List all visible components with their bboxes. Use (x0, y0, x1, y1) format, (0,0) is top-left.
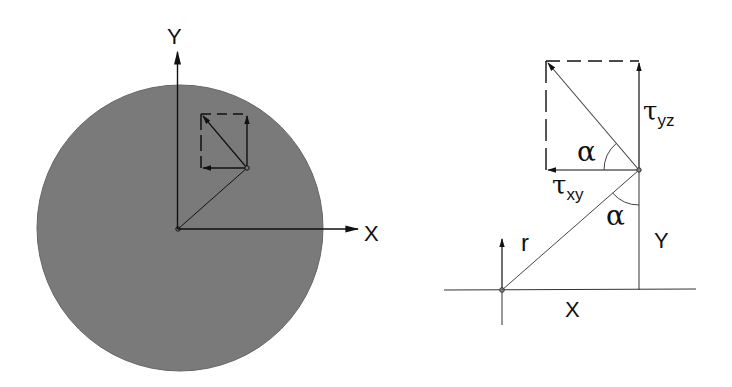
baseline (444, 289, 696, 290)
stress-point (245, 166, 249, 170)
y-leg-label: Y (654, 228, 669, 253)
left-diagram: Y X (37, 24, 379, 371)
right-stress-point (637, 168, 641, 172)
x-leg-label: X (565, 297, 580, 322)
tau-xy-label: τxy (552, 170, 584, 204)
alpha-bottom-label: α (606, 199, 625, 232)
y-axis-label: Y (167, 24, 182, 49)
diagram-canvas: Y X α α τyz (0, 0, 732, 387)
radius-label: r (521, 229, 529, 256)
tau-yz-label: τyz (643, 96, 674, 130)
x-axis-label: X (364, 221, 379, 246)
right-diagram: α α τyz τxy r Y X (444, 61, 696, 325)
alpha-arc-top (604, 143, 616, 170)
alpha-top-label: α (577, 135, 596, 168)
